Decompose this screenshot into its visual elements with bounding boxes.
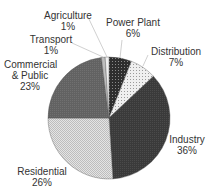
label-agriculture-pct: 1%	[40, 21, 96, 32]
label-residential: Residential 26%	[14, 166, 70, 188]
label-power-plant: Power Plant 6%	[105, 17, 161, 39]
label-industry: Industry 36%	[166, 134, 208, 156]
label-commercial-name-line2: & Public	[4, 70, 56, 81]
label-distribution-name: Distribution	[148, 46, 204, 57]
label-industry-pct: 36%	[166, 145, 208, 156]
label-power-plant-name: Power Plant	[105, 17, 161, 28]
slice-commercial-public	[48, 57, 109, 118]
label-distribution-pct: 7%	[148, 57, 204, 68]
label-agriculture-name: Agriculture	[40, 10, 96, 21]
label-agriculture: Agriculture 1%	[40, 10, 96, 32]
label-distribution: Distribution 7%	[148, 46, 204, 68]
label-residential-pct: 26%	[14, 177, 70, 188]
label-commercial-name-line1: Commercial	[4, 59, 56, 70]
label-transport: Transport 1%	[28, 34, 74, 56]
leader-transport	[72, 43, 103, 57]
label-transport-name: Transport	[28, 34, 74, 45]
label-commercial-public: Commercial & Public 23%	[4, 59, 56, 92]
label-industry-name: Industry	[166, 134, 208, 145]
label-commercial-pct: 23%	[4, 81, 56, 92]
label-power-plant-pct: 6%	[105, 28, 161, 39]
label-transport-pct: 1%	[28, 45, 74, 56]
leader-power-plant	[120, 40, 122, 58]
label-residential-name: Residential	[14, 166, 70, 177]
